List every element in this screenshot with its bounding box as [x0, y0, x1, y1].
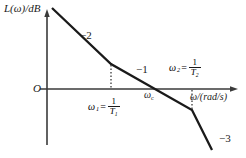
omega2-equals: = [181, 62, 187, 73]
magnitude-asymptote-curve [52, 8, 212, 150]
omega1-denominator: T1 [108, 107, 120, 116]
slope-label-minus3: −3 [219, 133, 231, 144]
omega1-subscript: 1 [96, 105, 99, 112]
omega-c-subscript: c [151, 94, 154, 101]
slope-label-minus2: −2 [80, 30, 92, 41]
omega2-denominator: T2 [189, 68, 201, 77]
origin-label: O [33, 83, 41, 94]
crossover-frequency-label: ωc [144, 90, 154, 100]
slope-label-minus1: −1 [136, 64, 148, 75]
omega1-fraction: 1 T1 [108, 97, 120, 116]
y-axis [44, 9, 49, 145]
plot-canvas [0, 0, 246, 158]
omega2-subscript: 2 [177, 66, 180, 73]
bode-plot-figure: L(ω)/dB O ω/(rad/s) −2 −1 −3 ωc ω1 = 1 T… [0, 0, 246, 158]
omega-c-symbol: ω [144, 89, 151, 100]
y-axis-label: L(ω)/dB [4, 3, 41, 14]
omega2-den-subscript: 2 [196, 72, 199, 78]
x-axis-label: ω/(rad/s) [190, 92, 227, 102]
omega1-den-subscript: 1 [115, 111, 118, 117]
omega1-equals: = [100, 101, 106, 112]
omega2-fraction: 1 T2 [189, 58, 201, 77]
omega2-symbol: ω [169, 62, 176, 73]
omega1-symbol: ω [88, 101, 95, 112]
omega2-equation: ω2 = 1 T2 [169, 58, 201, 77]
omega1-numerator: 1 [109, 97, 118, 106]
omega2-numerator: 1 [190, 58, 199, 67]
omega1-equation: ω1 = 1 T1 [88, 97, 120, 116]
y-axis-label-text: L(ω)/dB [4, 2, 41, 14]
